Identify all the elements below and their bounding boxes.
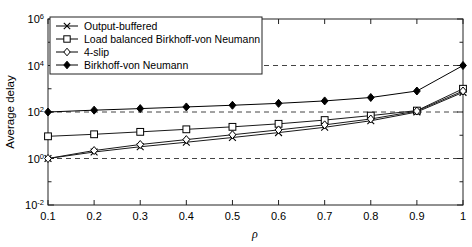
chart-figure: 10610410210010-2 0.10.20.30.40.50.60.70.… [0,0,472,247]
y-axis-title: Average delay [4,75,16,149]
legend-label: Birkhoff-von Neumann [84,59,188,71]
legend-label: 4-slip [84,46,109,58]
marker-square [183,126,190,133]
x-tick-label: 0.5 [225,210,240,222]
x-tick-label: 0.8 [363,210,378,222]
x-tick-label: 0.6 [271,210,286,222]
x-tick-label: 0.4 [179,210,194,222]
x-tick-label: 0.2 [86,210,101,222]
legend-label: Output-buffered [84,20,158,32]
legend[interactable]: Output-bufferedLoad balanced Birkhoff-vo… [50,17,262,74]
marker-square [64,36,70,42]
marker-square [45,133,52,140]
x-tick-label: 0.7 [317,210,332,222]
average-delay-log-line-chart: 10610410210010-2 0.10.20.30.40.50.60.70.… [0,0,472,247]
x-tick-label: 0.9 [409,210,424,222]
x-axis-title: ρ [251,227,258,241]
marker-square [229,123,236,130]
x-tick-label: 0.1 [40,210,55,222]
marker-square [137,128,144,135]
legend-label: Load balanced Birkhoff-von Neumann [84,33,260,45]
legend-item-load-balanced-birkhoff-von-neumann[interactable]: Load balanced Birkhoff-von Neumann [56,33,260,45]
x-tick-label: 1 [460,210,466,222]
marker-square [91,131,98,138]
x-tick-label: 0.3 [133,210,148,222]
